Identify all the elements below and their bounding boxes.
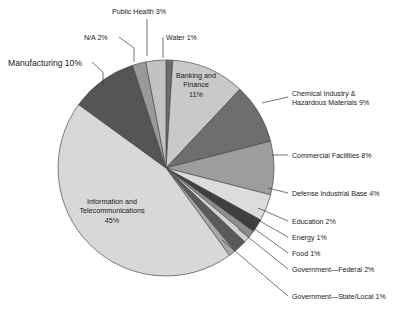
pie-chart-figure: Water 1%Banking and Finance 11%Chemical … bbox=[0, 0, 403, 312]
pie-chart-svg: Water 1%Banking and Finance 11%Chemical … bbox=[0, 0, 403, 312]
slice-label-water: Water 1% bbox=[166, 34, 198, 42]
slice-label-manufacturing: Manufacturing 10% bbox=[8, 58, 82, 68]
slice-label-public-health: Public Health 3% bbox=[112, 8, 167, 16]
leader-line-gov-state-local bbox=[222, 240, 288, 296]
leader-line-chemical bbox=[262, 97, 288, 103]
slice-label-gov-state-local: Government—State/Local 1% bbox=[292, 293, 387, 301]
slice-label-gov-federal: Government—Federal 2% bbox=[292, 266, 375, 274]
slice-label-food: Food 1% bbox=[292, 250, 321, 258]
slice-label-chemical: Chemical Industry &Hazardous Materials 9… bbox=[292, 90, 370, 107]
slice-label-commercial: Commercial Facilities 8% bbox=[292, 152, 372, 160]
leader-line-na bbox=[119, 37, 134, 62]
slice-label-na: N/A 2% bbox=[84, 34, 108, 42]
slice-label-education: Education 2% bbox=[292, 218, 336, 226]
pie-slices-group: Water 1%Banking and Finance 11%Chemical … bbox=[58, 60, 274, 276]
slice-label-energy: Energy 1% bbox=[292, 234, 327, 242]
slice-label-defense: Defense Industrial Base 4% bbox=[292, 190, 380, 198]
leader-line-food bbox=[245, 222, 288, 253]
